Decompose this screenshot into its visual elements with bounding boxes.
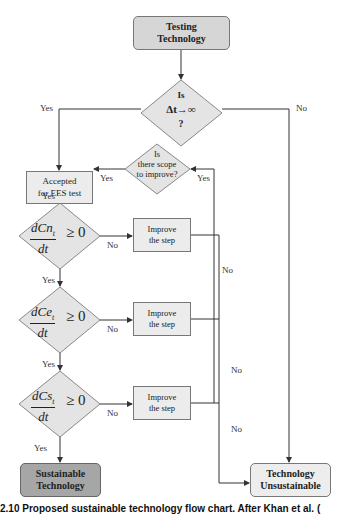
decision-cs-fraction: dCst dt	[31, 389, 55, 423]
improve-3-line2: the step	[149, 403, 175, 413]
decision-time-line1: Is	[151, 90, 211, 101]
improve-step-box-3: Improve the step	[133, 386, 191, 420]
cs-relation: ≥ 0	[66, 393, 85, 408]
label-ce-yes: Yes	[42, 360, 55, 369]
sustainable-line1: Sustainable	[36, 468, 85, 479]
accepted-line1: Accepted	[43, 176, 77, 186]
improve-1-line1: Improve	[148, 224, 177, 234]
start-label-line2: Technology	[157, 33, 206, 44]
improve-1-line2: the step	[149, 235, 175, 245]
scope-line1: Is	[127, 149, 187, 159]
label-scope-yes-left: Yes	[100, 174, 113, 183]
label-cn-no: No	[107, 241, 118, 250]
decision-scope-text: Is there scope to improve?	[127, 149, 187, 180]
decision-time-line2: Δt→∞	[151, 103, 211, 116]
label-ce-no: No	[107, 325, 118, 334]
decision-ce-fraction: dCet dt	[30, 305, 55, 339]
sustainable-line2: Technology	[36, 480, 85, 491]
label-accepted-yes: Yes	[42, 192, 55, 201]
scope-line2: there scope	[127, 159, 187, 169]
improve-2-line1: Improve	[148, 308, 177, 318]
figure-caption: 2.10 Proposed sustainable technology flo…	[0, 503, 344, 514]
improve-3-line1: Improve	[148, 392, 177, 402]
label-cn-yes: Yes	[42, 276, 55, 285]
ce-denominator: dt	[38, 324, 48, 339]
cn-subscript: t	[53, 229, 55, 238]
label-loop-no-3: No	[231, 425, 242, 434]
unsustainable-line1: Technology	[266, 468, 315, 479]
unsustainable-line2: Unsustainable	[260, 480, 321, 491]
scope-line3: to improve?	[127, 169, 187, 179]
technology-unsustainable-terminal: Technology Unsustainable	[250, 463, 331, 497]
cs-subscript: t	[52, 397, 54, 406]
start-label-line1: Testing	[166, 21, 197, 32]
label-time-no: No	[296, 104, 307, 113]
ce-subscript: t	[52, 313, 54, 322]
cs-denominator: dt	[38, 408, 48, 423]
sustainable-technology-terminal: Sustainable Technology	[20, 463, 101, 497]
label-time-yes: Yes	[40, 104, 53, 113]
flowchart-connectors	[0, 0, 344, 514]
label-loop-no-1: No	[222, 266, 233, 275]
cn-numerator: dCn	[31, 220, 53, 235]
label-loop-no-2: No	[231, 366, 242, 375]
label-cs-yes: Yes	[34, 444, 47, 453]
improve-2-line2: the step	[149, 319, 175, 329]
improve-step-box-1: Improve the step	[133, 218, 191, 252]
decision-cn-fraction: dCnt dt	[30, 221, 56, 255]
decision-time-line3: ?	[151, 118, 211, 130]
improve-step-box-2: Improve the step	[133, 302, 191, 336]
ce-relation: ≥ 0	[66, 309, 85, 324]
ce-numerator: dCe	[31, 304, 52, 319]
cn-denominator: dt	[38, 240, 48, 255]
decision-time-text: Is Δt→∞ ?	[151, 90, 211, 130]
cs-numerator: dCs	[32, 388, 52, 403]
label-cs-no: No	[107, 409, 118, 418]
start-testing-technology: Testing Technology	[133, 16, 230, 50]
label-scope-yes-right: Yes	[197, 174, 210, 183]
accepted-for-ees-box: Accepted for EES test	[26, 171, 93, 204]
cn-relation: ≥ 0	[66, 225, 85, 240]
